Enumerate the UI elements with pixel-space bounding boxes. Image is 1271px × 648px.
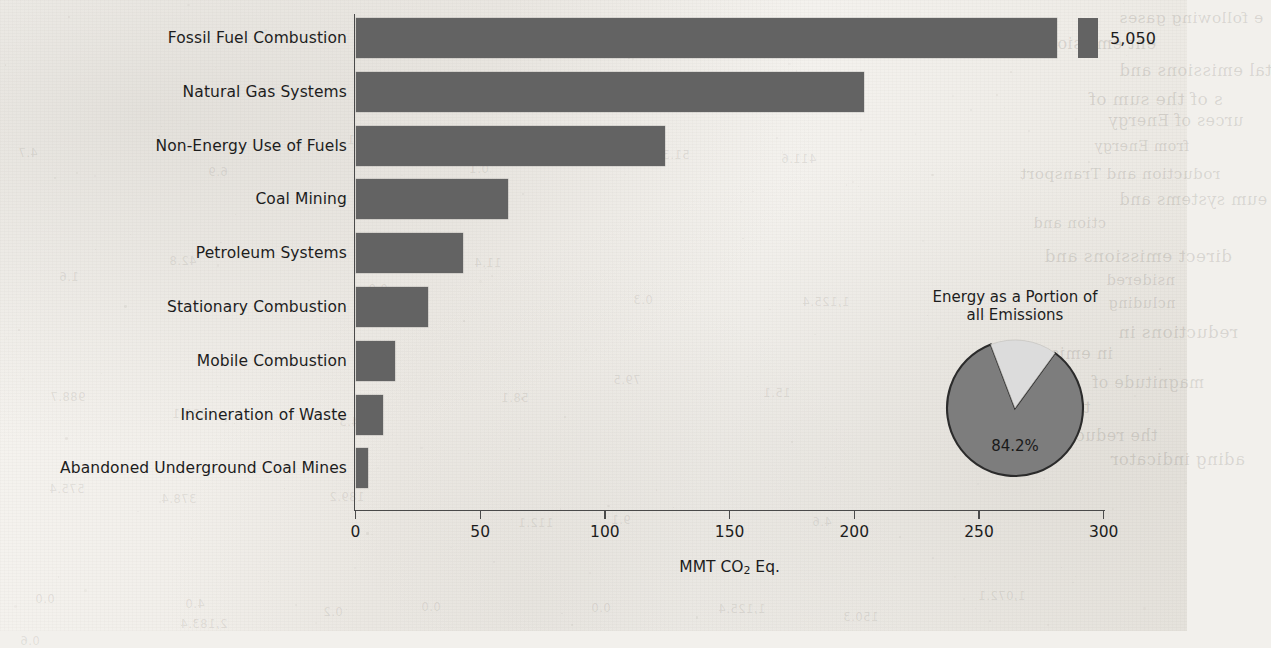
category-label: Fossil Fuel Combustion (168, 29, 347, 47)
bar (356, 341, 396, 381)
bar-truncated (356, 18, 1058, 58)
category-label: Non-Energy Use of Fuels (155, 137, 347, 155)
x-axis-tick-label: 200 (840, 523, 870, 541)
bar (356, 233, 463, 273)
pie-title-line-1: Energy as a Portion of (855, 288, 1175, 306)
x-axis-tick-label: 50 (470, 523, 490, 541)
category-label: Coal Mining (255, 190, 347, 208)
x-axis-tick (978, 510, 979, 519)
x-axis-title: MMT CO2 Eq. (679, 558, 780, 576)
pie-chart (941, 334, 1089, 482)
x-axis-tick (480, 510, 481, 519)
x-axis-tick (355, 510, 356, 519)
x-axis-tick (854, 510, 855, 519)
x-axis-title-pre: MMT CO (679, 558, 743, 576)
x-axis-tick (604, 510, 605, 519)
x-axis-title-post: Eq. (750, 558, 780, 576)
category-label: Incineration of Waste (180, 406, 347, 424)
bar (356, 179, 508, 219)
x-axis-title-subscript: 2 (743, 564, 750, 577)
x-axis-tick-label: 0 (351, 523, 361, 541)
x-axis-tick-label: 150 (715, 523, 745, 541)
category-label: Abandoned Underground Coal Mines (60, 459, 347, 477)
bar (356, 448, 368, 488)
bar-break-stub (1078, 18, 1098, 58)
x-axis-tick-label: 250 (964, 523, 994, 541)
bar (356, 72, 865, 112)
bleed-through-number: 0.6 (20, 634, 40, 648)
category-label: Mobile Combustion (197, 352, 347, 370)
category-label: Petroleum Systems (196, 244, 347, 262)
x-axis-tick-label: 100 (590, 523, 620, 541)
x-axis-tick-label: 300 (1089, 523, 1119, 541)
x-axis-tick (729, 510, 730, 519)
pie-slice-label-energy: 84.2% (991, 437, 1039, 455)
x-axis-tick (1103, 510, 1104, 519)
pie-chart-title: Energy as a Portion of all Emissions (855, 288, 1175, 325)
bar-value-label: 5,050 (1110, 29, 1156, 48)
pie-chart-svg (941, 334, 1089, 482)
category-label: Natural Gas Systems (183, 83, 347, 101)
bar (356, 395, 383, 435)
bar (356, 126, 665, 166)
pie-title-line-2: all Emissions (855, 306, 1175, 324)
bar (356, 287, 428, 327)
y-axis-line (354, 14, 355, 510)
category-label: Stationary Combustion (167, 298, 347, 316)
